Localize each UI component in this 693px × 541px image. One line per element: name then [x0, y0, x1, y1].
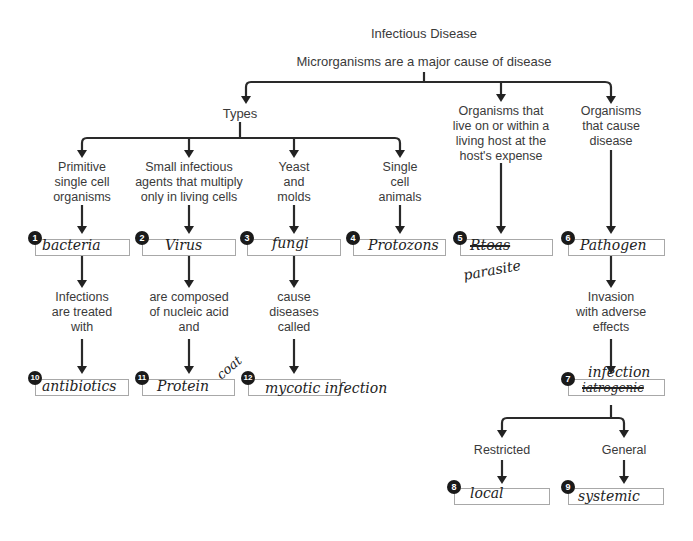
- number-badge-4: 4: [346, 231, 360, 245]
- root-node: Microrganisms are a major cause of disea…: [296, 54, 551, 69]
- number-badge-11: 11: [135, 371, 149, 385]
- answer-text-4: Protozons: [368, 237, 439, 253]
- number-badge-8: 8: [447, 480, 461, 494]
- type-protozoa-description: Singlecellanimals: [378, 160, 421, 205]
- number-badge-5: 5: [453, 231, 467, 245]
- answer-text-1: bacteria: [42, 237, 101, 253]
- fungi-disease-description: causediseasescalled: [269, 290, 318, 335]
- number-badge-12: 12: [241, 371, 255, 385]
- answer-struck-5: Rtoas: [470, 237, 510, 253]
- answer-text-10: antibiotics: [42, 378, 116, 394]
- diagram-title: Infectious Disease: [371, 26, 477, 41]
- answer-struck-7: iatrogenic: [582, 381, 644, 395]
- number-badge-2: 2: [135, 231, 149, 245]
- answer-text-12: mycotic infection: [265, 380, 387, 396]
- number-badge-10: 10: [28, 371, 42, 385]
- number-badge-7: 7: [561, 372, 575, 386]
- answer-text-2: Virus: [165, 237, 202, 253]
- number-badge-3: 3: [240, 231, 254, 245]
- answer-text-11: Protein: [157, 378, 209, 394]
- invasion-description: Invasionwith adverseeffects: [576, 290, 646, 335]
- virus-composition-description: are composedof nucleic acidand: [149, 290, 228, 335]
- restricted-node: Restricted: [474, 443, 530, 458]
- number-badge-6: 6: [561, 231, 575, 245]
- connector-lines: [0, 0, 693, 541]
- pathogen-description: Organismsthat causedisease: [581, 104, 641, 149]
- number-badge-1: 1: [28, 231, 42, 245]
- types-node: Types: [223, 106, 258, 121]
- answer-text-6: Pathogen: [580, 237, 646, 253]
- type-bacteria-description: Primitivesingle cellorganisms: [53, 160, 111, 205]
- answer-text-8: local: [470, 485, 504, 501]
- answer-text-3: fungi: [272, 235, 309, 251]
- number-badge-9: 9: [561, 480, 575, 494]
- type-virus-description: Small infectiousagents that multiplyonly…: [135, 160, 243, 205]
- answer-text-9: systemic: [578, 488, 640, 504]
- bacteria-treatment-description: Infectionsare treatedwith: [52, 290, 112, 335]
- type-fungi-description: Yeastandmolds: [277, 160, 310, 205]
- answer-text-7: infection: [588, 364, 650, 380]
- parasite-description: Organisms thatlive on or within aliving …: [453, 104, 550, 164]
- general-node: General: [602, 443, 646, 458]
